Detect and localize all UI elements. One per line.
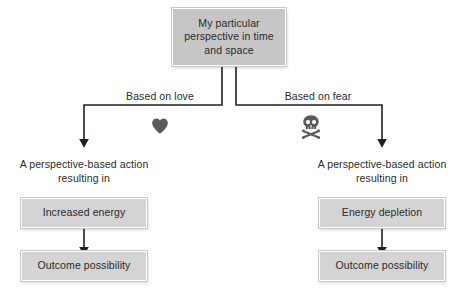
node-root[interactable]: My particular perspective in time and sp… — [172, 8, 286, 66]
branch-label-fear: Based on fear — [262, 90, 374, 102]
node-energy-depletion[interactable]: Energy depletion — [319, 198, 445, 228]
node-outcome-possibility-right[interactable]: Outcome possibility — [319, 251, 445, 281]
flow-diagram: My particular perspective in time and sp… — [0, 0, 464, 298]
node-outcome-possibility-left[interactable]: Outcome possibility — [21, 251, 147, 281]
node-increased-energy[interactable]: Increased energy — [21, 198, 147, 228]
node-root-label: My particular perspective in time and sp… — [177, 17, 281, 57]
branch-label-love: Based on love — [104, 90, 216, 102]
branch-intro-text-fear: A perspective-based action resulting in — [316, 158, 448, 186]
heart-icon — [150, 116, 170, 136]
branch-intro-text-love: A perspective-based action resulting in — [18, 158, 150, 186]
skull-and-crossbones-icon — [300, 114, 322, 140]
